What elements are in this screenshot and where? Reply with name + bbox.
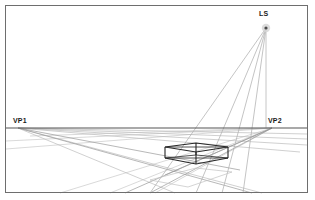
vanishing-point-2-label: VP2 [268, 117, 282, 124]
vanishing-point-1-label: VP1 [13, 117, 27, 124]
light-source-label: LS [259, 10, 268, 17]
perspective-diagram: VP1 VP2 LS [0, 0, 315, 200]
ls-dot-core [264, 26, 267, 29]
figure-canvas [0, 0, 315, 200]
light-source-marker [262, 24, 270, 32]
